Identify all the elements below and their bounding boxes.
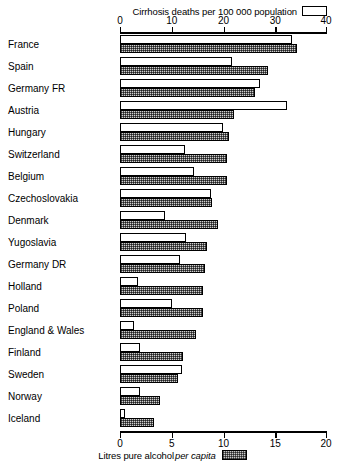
bar-alcohol-13	[120, 330, 196, 339]
bar-deaths-0	[120, 35, 292, 44]
country-label-poland: Poland	[8, 302, 116, 315]
bar-alcohol-15	[120, 374, 178, 383]
bar-alcohol-2	[120, 88, 255, 97]
cirrhosis-alcohol-chart: Cirrhosis deaths per 100 000 population …	[0, 0, 345, 467]
bar-alcohol-16	[120, 396, 160, 405]
bar-alcohol-10	[120, 264, 205, 273]
country-label-sweden: Sweden	[8, 368, 116, 381]
bar-deaths-3	[120, 101, 287, 110]
bar-alcohol-1	[120, 66, 268, 75]
bar-deaths-7	[120, 189, 211, 198]
bar-alcohol-9	[120, 242, 207, 251]
top-axis-tick-0	[120, 27, 121, 32]
country-label-belgium: Belgium	[8, 170, 116, 183]
bar-deaths-11	[120, 277, 138, 286]
bar-deaths-8	[120, 211, 165, 220]
country-label-holland: Holland	[8, 280, 116, 293]
bar-deaths-17	[120, 409, 125, 418]
top-axis-label-20: 20	[204, 15, 244, 26]
bar-deaths-6	[120, 167, 194, 176]
country-label-switzerland: Switzerland	[8, 148, 116, 161]
country-label-spain: Spain	[8, 60, 116, 73]
bar-alcohol-12	[120, 308, 203, 317]
bottom-axis-caption: Litres pure alcohol per capita	[0, 447, 345, 463]
bar-deaths-1	[120, 57, 232, 66]
bar-deaths-5	[120, 145, 185, 154]
bottom-axis-tick-20	[326, 433, 327, 438]
country-label-yugoslavia: Yugoslavia	[8, 236, 116, 249]
bottom-axis: 0 5 10 15 20	[120, 431, 327, 433]
bar-deaths-15	[120, 365, 182, 374]
bar-alcohol-14	[120, 352, 183, 361]
bar-alcohol-11	[120, 286, 203, 295]
top-axis-tick-30	[275, 27, 276, 32]
country-label-england-wales: England & Wales	[8, 324, 116, 337]
bar-alcohol-7	[120, 198, 212, 207]
bar-alcohol-8	[120, 220, 218, 229]
country-label-finland: Finland	[8, 346, 116, 359]
top-axis-tick-20	[224, 27, 225, 32]
country-label-germany-dr: Germany DR	[8, 258, 116, 271]
bar-alcohol-17	[120, 418, 154, 427]
country-label-austria: Austria	[8, 104, 116, 117]
country-label-denmark: Denmark	[8, 214, 116, 227]
bottom-axis-tick-15	[275, 433, 276, 438]
bottom-axis-caption-italic: per capita	[174, 450, 217, 461]
bar-deaths-14	[120, 343, 140, 352]
bar-alcohol-0	[120, 44, 297, 53]
bar-deaths-13	[120, 321, 134, 330]
bar-alcohol-6	[120, 176, 227, 185]
top-axis-tick-10	[172, 27, 173, 32]
bar-alcohol-3	[120, 110, 234, 119]
top-axis: 0 10 20 30 40	[120, 32, 327, 34]
bar-deaths-9	[120, 233, 186, 242]
top-axis-label-0: 0	[100, 15, 140, 26]
country-label-norway: Norway	[8, 390, 116, 403]
bar-deaths-2	[120, 79, 260, 88]
bar-alcohol-5	[120, 154, 227, 163]
bottom-axis-tick-0	[120, 433, 121, 438]
bar-deaths-4	[120, 123, 223, 132]
country-label-france: France	[8, 38, 116, 51]
country-label-czechoslovakia: Czechoslovakia	[8, 192, 116, 205]
country-label-germany-fr: Germany FR	[8, 82, 116, 95]
bar-alcohol-4	[120, 132, 229, 141]
bar-deaths-16	[120, 387, 140, 396]
top-axis-label-30: 30	[255, 15, 295, 26]
top-axis-label-10: 10	[152, 15, 192, 26]
bar-deaths-12	[120, 299, 172, 308]
country-label-iceland: Iceland	[8, 412, 116, 425]
country-label-hungary: Hungary	[8, 126, 116, 139]
top-axis-tick-40	[326, 27, 327, 32]
bottom-axis-tick-10	[224, 433, 225, 438]
top-axis-label-40: 40	[306, 15, 345, 26]
bottom-axis-tick-5	[172, 433, 173, 438]
bottom-axis-caption-text: Litres pure alcohol	[98, 450, 174, 461]
legend-swatch-alcohol	[222, 450, 247, 460]
bar-deaths-10	[120, 255, 180, 264]
